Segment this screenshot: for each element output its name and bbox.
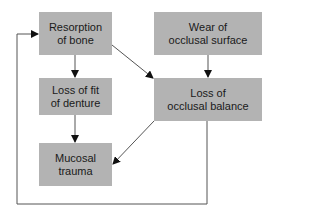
node-label-line: of bone: [49, 34, 102, 47]
node-label-line: Loss of fit: [51, 84, 101, 97]
node-label-line: Resorption: [49, 21, 102, 34]
node-label-line: Wear of: [169, 21, 248, 34]
node-wear-of-occlusal-surface: Wear of occlusal surface: [154, 12, 262, 55]
node-loss-of-fit-of-denture: Loss of fit of denture: [39, 78, 112, 115]
node-label-line: Loss of: [167, 87, 248, 100]
node-label-line: occlusal surface: [169, 34, 248, 47]
node-label-line: trauma: [55, 165, 96, 178]
edge-resorption-to-loss-balance: [112, 45, 153, 78]
node-label-line: occlusal balance: [167, 100, 248, 113]
node-mucosal-trauma: Mucosal trauma: [39, 143, 112, 186]
node-resorption-of-bone: Resorption of bone: [39, 12, 112, 55]
node-label-line: Mucosal: [55, 152, 96, 165]
edge-loss-balance-to-mucosal: [113, 121, 154, 164]
node-label-line: of denture: [51, 97, 101, 110]
node-loss-of-occlusal-balance: Loss of occlusal balance: [154, 78, 262, 121]
